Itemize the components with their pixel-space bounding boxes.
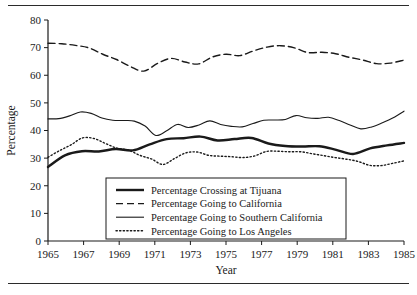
data-series-group	[48, 43, 404, 167]
legend-label-0: Percentage Crossing at Tijuana	[151, 185, 282, 196]
x-tick-label: 1977	[251, 248, 274, 260]
x-tick-label: 1981	[322, 248, 344, 260]
x-tick-label: 1975	[215, 248, 238, 260]
x-tick-label: 1983	[357, 248, 380, 260]
y-tick-label: 60	[30, 69, 42, 81]
x-tick-label: 1973	[179, 248, 202, 260]
legend-label-1: Percentage Going to California	[151, 198, 282, 209]
y-axis-title: Percentage	[5, 105, 18, 155]
x-tick-label: 1969	[108, 248, 131, 260]
y-tick-label: 30	[30, 152, 42, 164]
legend-label-3: Percentage Going to Los Angeles	[151, 226, 292, 237]
figure-container: 01020304050607080 1965196719691971197319…	[0, 0, 417, 295]
y-tick-label: 80	[30, 14, 42, 26]
series-line-1	[48, 43, 404, 71]
plot-area: 01020304050607080 1965196719691971197319…	[0, 10, 417, 278]
y-tick-label: 40	[30, 124, 42, 136]
y-axis-tick-labels: 01020304050607080	[30, 14, 42, 247]
line-chart: 01020304050607080 1965196719691971197319…	[0, 10, 417, 278]
x-axis-ticks	[48, 241, 404, 245]
x-tick-label: 1979	[286, 248, 309, 260]
x-tick-label: 1967	[73, 248, 96, 260]
x-axis-title: Year	[215, 264, 236, 276]
bottom-rule	[8, 283, 409, 284]
y-tick-label: 50	[30, 97, 42, 109]
x-tick-label: 1985	[393, 248, 416, 260]
y-tick-label: 0	[36, 235, 42, 247]
y-tick-label: 10	[30, 207, 42, 219]
y-tick-label: 70	[30, 41, 42, 53]
series-line-2	[48, 111, 404, 135]
legend-label-2: Percentage Going to Southern California	[151, 212, 323, 223]
chart-legend: Percentage Crossing at TijuanaPercentage…	[106, 178, 346, 239]
x-axis-tick-labels: 1965196719691971197319751977197919811983…	[37, 248, 416, 260]
x-tick-label: 1971	[144, 248, 166, 260]
y-tick-label: 20	[30, 180, 42, 192]
x-tick-label: 1965	[37, 248, 60, 260]
top-rule	[8, 5, 409, 6]
